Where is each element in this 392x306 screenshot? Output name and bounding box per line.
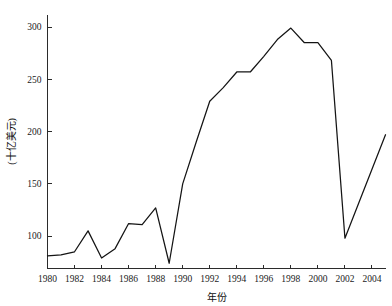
x-tick-label: 2000 (308, 274, 327, 284)
y-axis-title: (十亿美元) (5, 118, 18, 165)
x-tick-label: 1988 (146, 274, 165, 284)
y-tick-label: 200 (27, 127, 42, 137)
line-chart-plot: 100150200250300 198019821984198619881990… (0, 0, 392, 306)
x-tick-label: 1986 (119, 274, 138, 284)
x-axis-title: 年份 (207, 291, 227, 303)
y-tick-label: 150 (27, 179, 42, 189)
x-tick-label: 2002 (335, 274, 354, 284)
x-tick-label: 1990 (173, 274, 192, 284)
x-tick-label: 1994 (227, 274, 246, 284)
x-tick-label: 2004 (362, 274, 381, 284)
chart-container: 100150200250300 198019821984198619881990… (0, 0, 392, 306)
x-tick-label: 1992 (200, 274, 219, 284)
x-axis-ticks: 1980198219841986198819901992199419961998… (38, 265, 382, 284)
x-tick-label: 1996 (254, 274, 273, 284)
x-tick-label: 1982 (65, 274, 84, 284)
y-tick-label: 300 (27, 22, 42, 32)
x-tick-label: 1980 (38, 274, 57, 284)
x-tick-label: 1984 (92, 274, 111, 284)
y-tick-label: 100 (27, 231, 42, 241)
x-tick-label: 1998 (281, 274, 300, 284)
data-series-line (48, 28, 386, 263)
y-tick-label: 250 (27, 75, 42, 85)
